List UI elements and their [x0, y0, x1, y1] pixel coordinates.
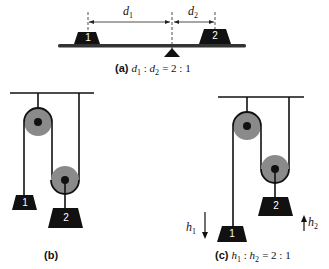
caption-c: (c) h1 : h2 = 2 : 1	[215, 249, 291, 264]
dim-d1-label: d1	[123, 4, 133, 20]
panel-c-pulleys	[202, 97, 307, 242]
h2-label: h2	[308, 215, 318, 231]
weight-2-label: 2	[209, 30, 221, 41]
b-weight-2-label: 2	[59, 212, 73, 223]
h1-label: h1	[186, 220, 196, 236]
weight-1-label: 1	[82, 32, 94, 43]
dim-d2-label: d2	[188, 4, 198, 20]
diagram-canvas	[0, 0, 329, 269]
b-weight-1-label: 1	[18, 197, 32, 208]
c-weight-1-label: 1	[225, 228, 239, 239]
c-weight-2-label: 2	[269, 200, 283, 211]
caption-b: (b)	[44, 249, 58, 261]
caption-a: (a) d1 : d2 = 2 : 1	[115, 62, 191, 77]
